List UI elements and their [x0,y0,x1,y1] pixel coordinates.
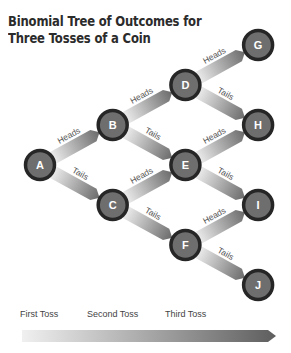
binomial-tree: HeadsTailsHeadsTailsHeadsTailsHeadsTails… [0,0,291,353]
node-e: E [171,151,200,180]
edges-layer: HeadsTailsHeadsTailsHeadsTailsHeadsTails… [42,37,253,283]
node-b: B [98,111,127,140]
timeline-label-first-toss: First Toss [20,309,58,319]
node-label: E [182,159,189,171]
node-label: I [257,199,260,211]
node-label: D [181,79,189,91]
node-h: H [244,111,273,140]
node-label: G [254,39,263,51]
node-i: I [244,191,273,220]
node-label: B [109,119,117,131]
node-label: J [255,279,261,291]
timeline-label-third-toss: Third Toss [165,309,206,319]
node-c: C [98,191,127,220]
timeline-label-second-toss: Second Toss [87,309,138,319]
timeline-arrow [22,330,276,342]
node-label: A [36,159,44,171]
node-label: C [109,199,117,211]
node-d: D [171,71,200,100]
node-a: A [26,151,55,180]
node-g: G [244,31,273,60]
node-f: F [171,231,200,260]
node-label: H [254,119,262,131]
node-j: J [244,271,273,300]
node-label: F [182,239,189,251]
